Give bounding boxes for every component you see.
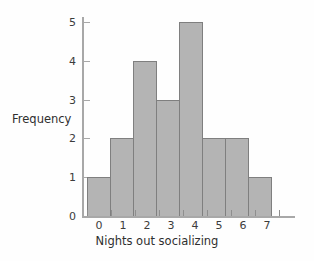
x-axis-tick-label-wrap: 5 (207, 219, 231, 232)
x-axis-tick-label-wrap: 0 (87, 219, 111, 232)
x-axis-tick (111, 210, 112, 216)
bar (110, 138, 134, 216)
x-axis-tick (183, 210, 184, 216)
x-axis-tick (207, 210, 208, 216)
y-axis-tick-label-wrap: 5 (58, 17, 76, 28)
histogram-figure: Frequency 543210 01234567 Nights out soc… (0, 0, 314, 261)
y-axis-tick-label-wrap: 3 (58, 95, 76, 106)
bar (156, 100, 180, 216)
bar (248, 177, 272, 216)
x-axis-tick-label-wrap: 1 (111, 219, 135, 232)
x-axis-tick-label: 6 (231, 219, 255, 232)
y-axis-tick (84, 216, 90, 217)
x-axis-tick-label: 4 (183, 219, 207, 232)
bar (87, 177, 111, 216)
x-axis-tick-label-wrap: 6 (231, 219, 255, 232)
x-axis-tick-label: 5 (207, 219, 231, 232)
x-axis-tick (159, 210, 160, 216)
plot-area (87, 17, 279, 216)
x-axis-tick (255, 210, 256, 216)
y-axis-tick-label: 0 (58, 211, 76, 222)
x-axis-tick-label: 2 (135, 219, 159, 232)
x-axis-tick-label-wrap: 2 (135, 219, 159, 232)
x-axis-tick-label: 3 (159, 219, 183, 232)
y-axis-tick-label: 2 (58, 133, 76, 144)
y-axis-tick-label: 1 (58, 172, 76, 183)
bar (225, 138, 249, 216)
y-axis-tick-label: 3 (58, 95, 76, 106)
bar-series (87, 22, 279, 216)
y-axis-title: Frequency (12, 112, 71, 126)
y-axis-tick-label: 4 (58, 56, 76, 67)
x-axis-tick-label-wrap: 3 (159, 219, 183, 232)
x-axis-tick-label-wrap: 4 (183, 219, 207, 232)
bar (202, 138, 226, 216)
y-axis-tick-label-wrap: 1 (58, 172, 76, 183)
x-axis-line (82, 216, 295, 218)
x-axis-tick (135, 210, 136, 216)
x-axis-tick-label: 0 (87, 219, 111, 232)
bar (133, 61, 157, 216)
y-axis-tick-label-wrap: 2 (58, 133, 76, 144)
y-axis-tick-label-wrap: 4 (58, 56, 76, 67)
x-axis-title: Nights out socializing (0, 234, 314, 248)
y-axis-tick-label: 5 (58, 17, 76, 28)
x-axis-tick (87, 210, 88, 216)
x-axis-tick (231, 210, 232, 216)
x-axis-tick-label-wrap: 7 (255, 219, 279, 232)
x-axis-tick-label: 7 (255, 219, 279, 232)
x-axis-tick (279, 210, 280, 216)
bar (179, 22, 203, 216)
y-axis-tick-label-wrap: 0 (58, 211, 76, 222)
y-axis-line (82, 17, 84, 217)
x-axis-tick-label: 1 (111, 219, 135, 232)
